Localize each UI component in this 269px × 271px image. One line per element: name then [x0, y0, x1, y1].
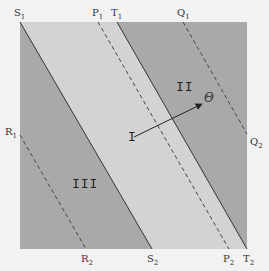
- label-q2: Q2: [250, 137, 263, 150]
- label-q1: Q1: [177, 8, 190, 21]
- region-label-iii: III: [72, 177, 98, 192]
- label-r1: R1: [5, 127, 17, 140]
- label-p2: P2: [223, 254, 234, 267]
- region-label-ii: II: [176, 80, 194, 95]
- label-t1: T1: [111, 8, 122, 21]
- label-s2: S2: [147, 254, 158, 267]
- region-label-i: I: [128, 130, 137, 145]
- label-s1: S1: [14, 8, 25, 21]
- theta-label: Θ: [204, 92, 214, 104]
- label-p1: P1: [92, 8, 103, 21]
- label-t2: T2: [243, 254, 254, 267]
- label-r2: R2: [81, 254, 93, 267]
